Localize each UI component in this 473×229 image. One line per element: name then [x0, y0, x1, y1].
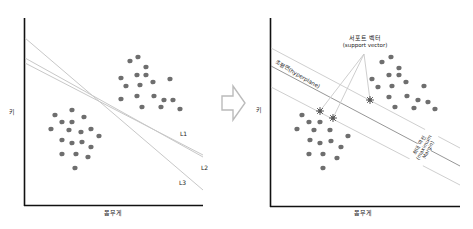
data-point — [69, 141, 74, 146]
data-point — [334, 156, 339, 161]
data-point — [73, 152, 78, 157]
left-axes — [24, 18, 203, 206]
support-vector-label: 서포트 벡터 (support vector) — [340, 35, 390, 49]
cluster-b-dots — [48, 108, 101, 171]
data-point — [88, 145, 93, 150]
cluster-b-dots — [294, 113, 350, 171]
data-point — [375, 85, 380, 90]
data-point — [78, 130, 83, 135]
candidate-line-l3 — [25, 38, 203, 190]
right-x-axis-label: 몸무게 — [354, 210, 372, 216]
data-point — [137, 83, 142, 88]
right-arrow-icon — [222, 86, 245, 120]
data-point — [345, 134, 350, 139]
data-point — [85, 155, 90, 160]
data-point — [134, 73, 139, 78]
support-vector-label-en: (support vector) — [340, 43, 390, 49]
data-point — [320, 166, 325, 171]
support-vector-star-icon — [329, 114, 337, 122]
data-point — [386, 73, 391, 78]
data-point — [72, 166, 77, 171]
data-point — [421, 84, 426, 89]
right-y-axis-label: 키 — [256, 107, 262, 113]
line-label-l2: L2 — [201, 165, 208, 171]
data-point — [299, 113, 304, 118]
candidate-lines — [25, 38, 203, 190]
hyperplane-line — [271, 66, 460, 166]
support-vector-star-icon — [316, 107, 324, 115]
data-point — [143, 65, 148, 70]
data-point — [306, 120, 311, 125]
data-point — [52, 113, 57, 118]
data-point — [307, 138, 312, 143]
data-point — [432, 107, 437, 112]
support-vector-pointers — [320, 54, 370, 118]
data-point — [177, 107, 182, 112]
data-point — [81, 115, 86, 120]
data-point — [404, 94, 409, 99]
data-point — [396, 66, 401, 71]
data-point — [411, 106, 416, 111]
data-point — [161, 98, 166, 103]
data-point — [386, 95, 391, 100]
support-vector-star-icon — [366, 96, 374, 104]
data-point — [69, 108, 74, 113]
data-point — [69, 120, 74, 125]
data-point — [415, 98, 420, 103]
data-point — [379, 60, 384, 65]
left-y-axis-label: 키 — [9, 109, 15, 115]
data-point — [311, 128, 316, 133]
data-point — [328, 139, 333, 144]
data-point — [167, 77, 172, 82]
candidate-line-l2 — [25, 58, 203, 157]
data-point — [317, 120, 322, 125]
data-point — [143, 73, 148, 78]
data-point — [306, 152, 311, 157]
left-x-axis-label: 몸무게 — [104, 210, 122, 216]
data-point — [338, 145, 343, 150]
data-point — [389, 84, 394, 89]
support-vector-markers — [316, 96, 374, 122]
data-point — [118, 76, 123, 81]
data-point — [327, 128, 332, 133]
data-point — [170, 98, 175, 103]
line-label-l3: L3 — [179, 180, 186, 186]
data-point — [118, 97, 123, 102]
data-point — [48, 127, 53, 132]
cluster-a-dots — [369, 55, 437, 112]
line-label-l1: L1 — [180, 131, 187, 137]
support-vector-label-ko: 서포트 벡터 — [340, 35, 390, 41]
data-point — [134, 94, 139, 99]
cluster-a-dots — [118, 55, 182, 112]
data-point — [96, 134, 101, 139]
data-point — [59, 120, 64, 125]
data-point — [425, 100, 430, 105]
data-point — [158, 105, 163, 110]
data-point — [59, 152, 64, 157]
data-point — [123, 84, 128, 89]
data-point — [320, 152, 325, 157]
data-point — [59, 138, 64, 143]
data-point — [135, 55, 140, 60]
data-point — [392, 105, 397, 110]
data-point — [150, 80, 155, 85]
data-point — [396, 73, 401, 78]
data-point — [388, 55, 393, 60]
data-point — [369, 77, 374, 82]
data-point — [151, 94, 156, 99]
data-point — [294, 127, 299, 132]
data-point — [79, 140, 84, 145]
data-point — [317, 141, 322, 146]
data-point — [66, 128, 71, 133]
svm-diagram — [0, 0, 473, 229]
candidate-line-l1 — [25, 63, 203, 155]
data-point — [403, 80, 408, 85]
data-point — [127, 59, 132, 64]
data-point — [88, 127, 93, 132]
data-point — [139, 105, 144, 110]
